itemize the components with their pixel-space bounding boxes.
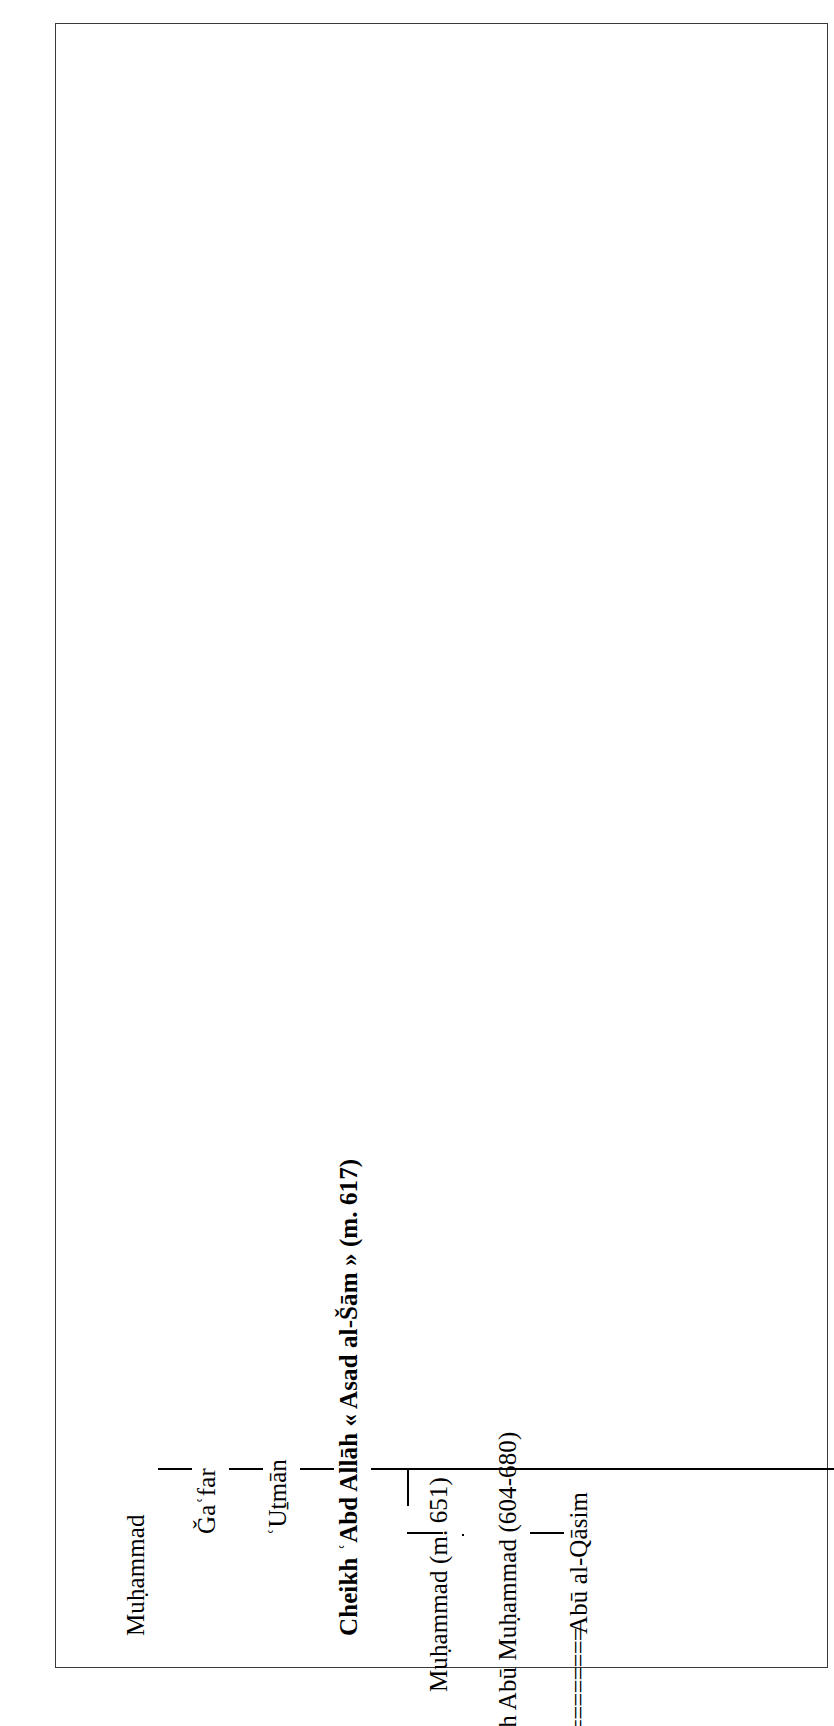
- node-muhammad-muin-al-din: Muḥammad Muʿīn al-Dīn (678-741): [636, 1716, 692, 1726]
- node-cheikh-abd-allah: Cheikh ʿAbd Allāh « Asad al-Šām » (m. 61…: [335, 1158, 363, 1635]
- genealogy-diagram: Muḥammad Ǧaʿfar ʿUṯmān Cheikh ʿAbd Allāh…: [62, 36, 822, 1656]
- rail-to-muhammad-651: [407, 1468, 409, 1506]
- node-gafar: Ǧaʿfar: [193, 1468, 221, 1534]
- node-muhammad-root: Muḥammad: [122, 1514, 150, 1636]
- node-utman: ʿUṯmān: [264, 1459, 292, 1536]
- stem-abd-allah-to-abu-al-qasim: [530, 1532, 564, 1534]
- stem-utman-to-cheikh: [300, 1468, 334, 1470]
- page-border: Muḥammad Ǧaʿfar ʿUṯmān Cheikh ʿAbd Allāh…: [55, 23, 828, 1668]
- node-abd-allah-abu-muhammad: ʿAbd Allāh Abū Muḥammad (604-680): [494, 1431, 522, 1726]
- node-abu-al-qasim: Abū al-Qāsim: [565, 1491, 593, 1633]
- node-muhammad-651: Muḥammad (m. 651): [425, 1477, 453, 1692]
- rail-muhammad-651-to-abd-allah: [462, 1534, 464, 1536]
- spine-children-of-cheikh: [405, 1468, 834, 1470]
- stem-muhammad-to-gafar: [158, 1468, 192, 1470]
- marriage-link-abu-al-qasim: =========: [565, 1628, 593, 1726]
- stem-gafar-to-utman: [229, 1468, 263, 1470]
- stem-to-abd-allah-abu-muhammad: [407, 1532, 443, 1534]
- stem-cheikh-to-children-rail: [371, 1468, 405, 1470]
